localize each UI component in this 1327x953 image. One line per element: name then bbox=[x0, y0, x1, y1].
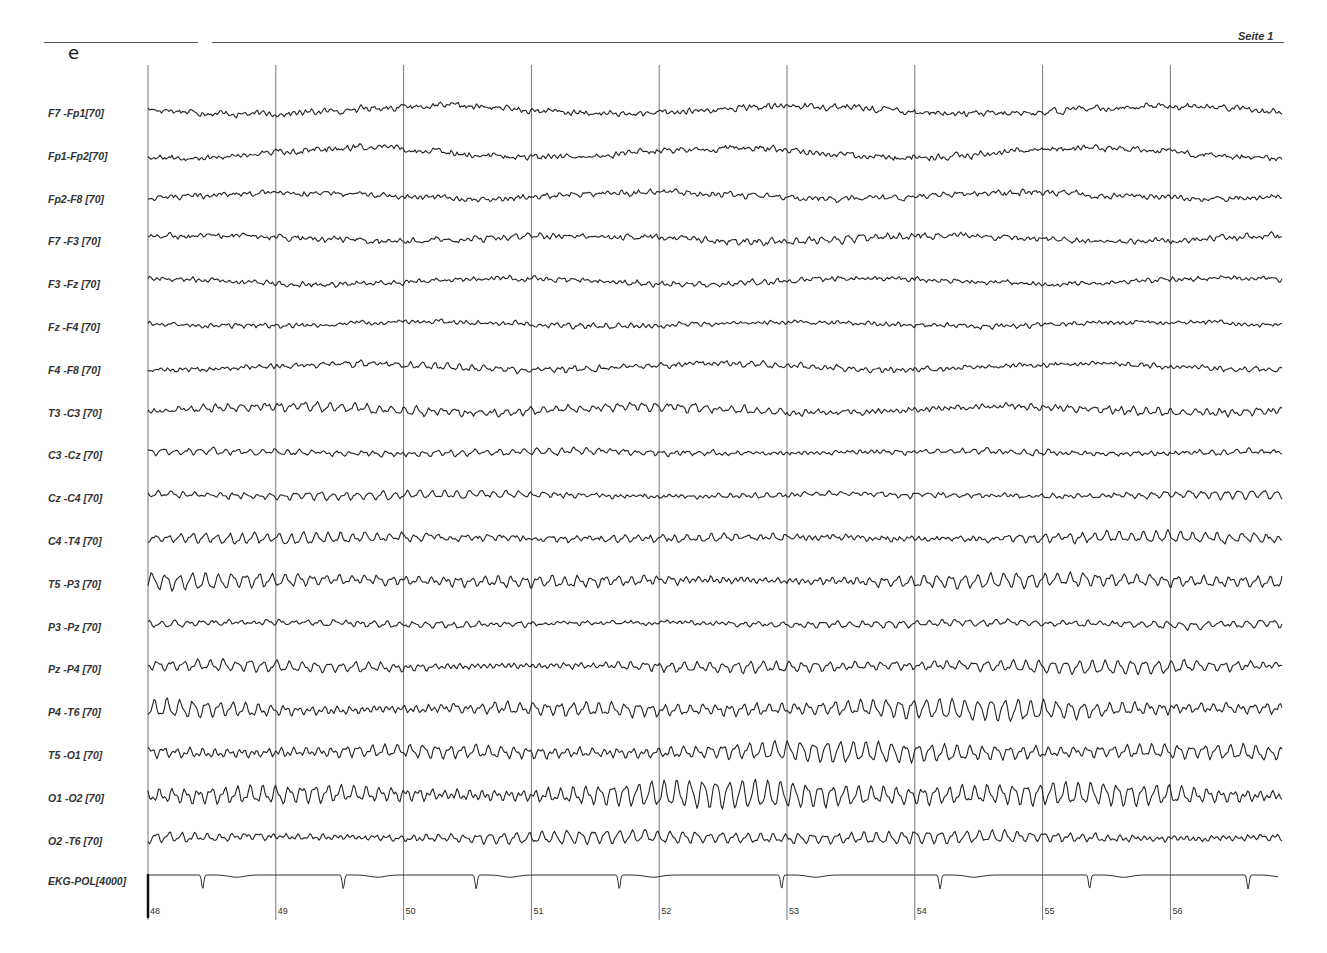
eeg-traces bbox=[0, 0, 1327, 953]
eeg-trace bbox=[148, 659, 1282, 675]
ekg-trace bbox=[148, 875, 1278, 889]
eeg-trace bbox=[148, 401, 1282, 417]
eeg-trace bbox=[148, 619, 1282, 631]
eeg-trace bbox=[148, 189, 1282, 203]
eeg-trace bbox=[148, 102, 1282, 118]
eeg-trace bbox=[148, 360, 1282, 374]
eeg-trace bbox=[148, 830, 1282, 845]
eeg-trace bbox=[148, 232, 1282, 246]
eeg-trace bbox=[148, 530, 1282, 544]
eeg-trace bbox=[148, 698, 1282, 721]
eeg-trace bbox=[148, 490, 1282, 501]
eeg-trace bbox=[148, 319, 1282, 329]
eeg-trace bbox=[148, 144, 1282, 161]
eeg-page: Seite 1 e F7 -Fp1[70]Fp1-Fp2[70]Fp2-F8 [… bbox=[0, 0, 1327, 953]
eeg-trace bbox=[148, 779, 1282, 809]
eeg-trace bbox=[148, 572, 1282, 592]
eeg-trace bbox=[148, 275, 1282, 287]
eeg-trace bbox=[148, 447, 1282, 457]
eeg-trace bbox=[148, 741, 1282, 764]
